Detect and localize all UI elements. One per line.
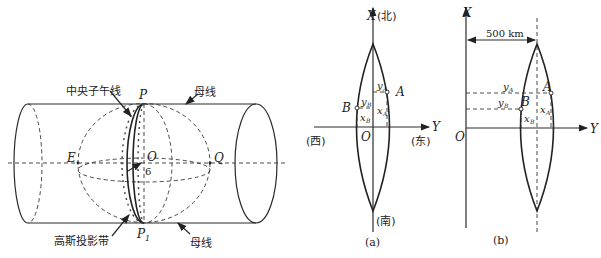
a-south-label: (南) bbox=[376, 215, 396, 228]
a-ya-label: y bbox=[376, 80, 383, 91]
a-y-axis-label: Y bbox=[432, 120, 441, 134]
gauss-cylinder-figure: 中央子午线 母线 高斯投影带 母线 P P 1 E O Q 6 bbox=[8, 84, 288, 250]
b-ya-label: y bbox=[502, 81, 509, 92]
b-y-axis-label: Y bbox=[590, 122, 599, 136]
point-q-label: Q bbox=[214, 151, 224, 165]
a-yb-label: y bbox=[360, 96, 367, 107]
a-x-axis-label: X bbox=[366, 9, 376, 23]
b-xb-sub: B bbox=[529, 118, 535, 125]
b-caption: (b) bbox=[493, 234, 509, 247]
diagram-canvas: 中央子午线 母线 高斯投影带 母线 P P 1 E O Q 6 X (北) Y … bbox=[0, 0, 601, 258]
a-point-a-label: A bbox=[395, 85, 405, 99]
central-meridian-label: 中央子午线 bbox=[66, 84, 121, 98]
point-q-marker bbox=[209, 162, 212, 165]
b-yb-sub: B bbox=[503, 102, 509, 109]
a-point-b bbox=[355, 106, 359, 110]
a-ya-sub: A bbox=[382, 85, 388, 92]
b-yb-label: y bbox=[497, 97, 504, 108]
figure-b: X Y O 500 km A B y A y B x A x B (b) bbox=[455, 6, 599, 247]
a-point-b-label: B bbox=[341, 101, 351, 115]
generatrix-top-label: 母线 bbox=[194, 85, 216, 99]
angle-six-label: 6 bbox=[145, 166, 151, 177]
b-origin-label: O bbox=[455, 130, 465, 144]
a-caption: (a) bbox=[365, 236, 380, 249]
a-north-label: (北) bbox=[377, 10, 397, 23]
a-west-label: (西) bbox=[306, 135, 326, 148]
cylinder-left-end-back bbox=[28, 104, 42, 223]
a-xb-sub: B bbox=[365, 117, 371, 124]
b-point-a-label: A bbox=[542, 80, 552, 94]
gauss-zone-label: 高斯投影带 bbox=[54, 234, 109, 248]
b-ya-sub: A bbox=[508, 86, 514, 93]
b-xa-sub: A bbox=[545, 109, 551, 116]
b-x-axis-label: X bbox=[462, 6, 472, 20]
point-p1-subscript: 1 bbox=[145, 234, 150, 243]
cylinder-right-end bbox=[235, 104, 277, 223]
cylinder-left-end-front bbox=[14, 104, 28, 223]
point-p-label: P bbox=[138, 88, 148, 102]
point-e-marker bbox=[77, 162, 80, 165]
a-xa-sub: A bbox=[382, 110, 388, 117]
figure-a: X (北) Y O (西) (东) (南) A B y A x A y B x … bbox=[306, 8, 441, 249]
angle-arrow bbox=[128, 163, 141, 171]
b-point-b-label: B bbox=[520, 95, 530, 109]
generatrix-bottom-label: 母线 bbox=[190, 236, 212, 250]
b-offset-label: 500 km bbox=[486, 28, 524, 39]
a-origin-label: O bbox=[361, 130, 371, 144]
generatrix-bottom-leader bbox=[178, 223, 190, 234]
point-o-label: O bbox=[147, 150, 157, 164]
point-e-label: E bbox=[66, 151, 76, 165]
a-east-label: (东) bbox=[411, 135, 431, 148]
a-yb-sub: B bbox=[366, 101, 372, 108]
